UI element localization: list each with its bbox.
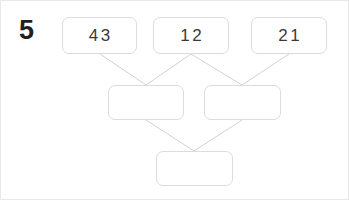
connector-top2-mid2 [191,54,242,85]
pyramid-cell-top-3-value: 21 [276,27,302,44]
connector-top3-mid2 [242,54,289,85]
connector-mid1-bot1 [146,120,194,151]
connector-mid2-bot1 [194,120,242,151]
pyramid-cell-top-2-value: 12 [178,27,204,44]
pyramid-cell-top-3[interactable]: 21 [251,17,327,54]
connector-top2-mid1 [146,54,191,85]
worksheet-canvas: 5 43 12 21 [0,0,349,200]
pyramid-cell-bot-1[interactable] [156,151,233,186]
connector-top1-mid1 [100,54,146,85]
pyramid-cell-top-2[interactable]: 12 [153,17,229,54]
pyramid-cell-mid-2[interactable] [204,85,281,120]
pyramid-cell-top-1-value: 43 [86,27,112,44]
question-number: 5 [19,15,34,45]
pyramid-cell-top-1[interactable]: 43 [62,17,137,54]
pyramid-cell-mid-1[interactable] [108,85,184,120]
